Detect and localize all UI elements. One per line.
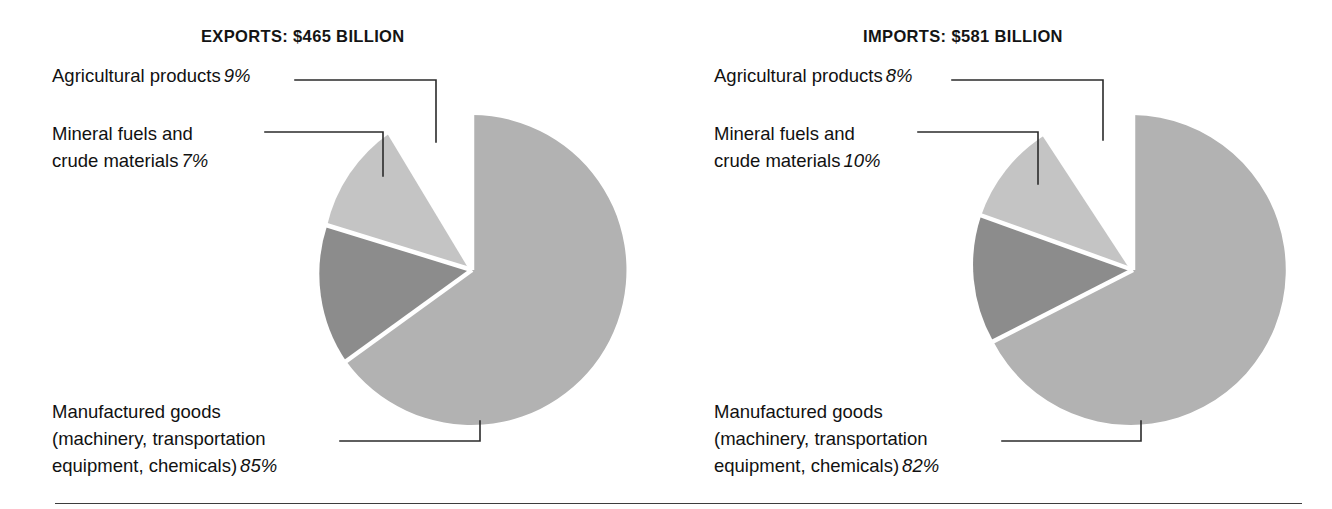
callout-manufactured-imports-line3: equipment, chemicals) [714,455,899,476]
callout-manufactured-imports: Manufactured goods (machinery, transport… [714,398,939,479]
leader-line-agricultural-imports [952,80,1103,140]
callout-agricultural-exports-pct: 9% [221,65,251,86]
callout-mineral-exports: Mineral fuels and crude materials7% [52,120,208,174]
exports-panel: EXPORTS: $465 BILLION Agricu [0,0,666,509]
callout-mineral-exports-line1: Mineral fuels and [52,120,208,147]
callout-mineral-imports-line1: Mineral fuels and [714,120,881,147]
callout-agricultural-imports: Agricultural products8% [714,62,912,89]
imports-panel: IMPORTS: $581 BILLION Agricultural produ… [666,0,1332,509]
callout-manufactured-imports-line1: Manufactured goods [714,398,939,425]
callout-manufactured-exports: Manufactured goods (machinery, transport… [52,398,277,479]
callout-mineral-imports-pct: 10% [840,150,880,171]
callout-manufactured-exports-line1: Manufactured goods [52,398,277,425]
callout-agricultural-imports-pct: 8% [883,65,913,86]
callout-manufactured-exports-line2: (machinery, transportation [52,425,277,452]
callout-agricultural-imports-text: Agricultural products [714,65,883,86]
callout-manufactured-imports-pct: 82% [899,455,939,476]
bottom-rule [55,503,1302,504]
trade-composition-figure: EXPORTS: $465 BILLION Agricu [0,0,1332,509]
callout-manufactured-exports-pct: 85% [237,455,277,476]
callout-mineral-exports-pct: 7% [178,150,208,171]
callout-manufactured-imports-line2: (machinery, transportation [714,425,939,452]
callout-mineral-imports: Mineral fuels and crude materials10% [714,120,881,174]
callout-mineral-imports-line2: crude materials [714,150,840,171]
callout-agricultural-exports: Agricultural products9% [52,62,250,89]
callout-agricultural-exports-text: Agricultural products [52,65,221,86]
callout-manufactured-exports-line3: equipment, chemicals) [52,455,237,476]
callout-mineral-exports-line2: crude materials [52,150,178,171]
